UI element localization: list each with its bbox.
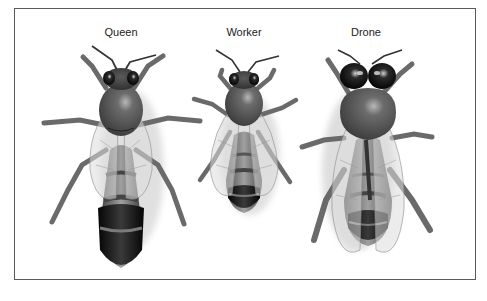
worker-bee	[194, 50, 296, 215]
bee-illustrations	[0, 0, 487, 301]
drone-bee	[302, 50, 432, 252]
queen-bee	[44, 46, 200, 268]
